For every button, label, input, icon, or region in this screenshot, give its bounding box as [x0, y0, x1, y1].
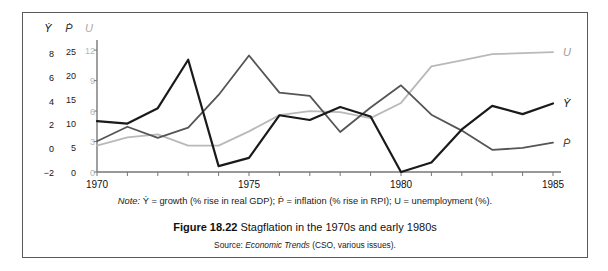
y-tick-label-inflation: 20 [66, 71, 76, 81]
end-label-growth: Ẏ [563, 97, 571, 109]
figure-number: Figure 18.22 [173, 221, 237, 233]
y-tick-label-inflation: 10 [66, 119, 76, 129]
figure-caption-text: Stagflation in the 1970s and early 1980s [240, 221, 436, 233]
y-tick-label-growth: 4 [49, 97, 54, 107]
figure-source: Source: Economic Trends (CSO, various is… [22, 240, 588, 250]
y-tick-label-growth: 0 [49, 144, 54, 154]
series-line-unemployment [97, 52, 553, 145]
y-tick-label-inflation: 0 [71, 168, 76, 178]
figure-note: Note: Ẏ = growth (% rise in real GDP); Ṗ… [22, 196, 588, 206]
end-label-inflation: Ṗ [563, 137, 571, 149]
end-label-unemployment: U [563, 46, 571, 58]
y-tick-label-unemployment: 12 [85, 46, 95, 56]
y-tick-label-inflation: 25 [66, 47, 76, 57]
y-tick-label-growth: −2 [44, 168, 54, 178]
note-prefix: Note: [118, 196, 140, 206]
y-axis-header-inflation: Ṗ [65, 22, 73, 34]
y-tick-label-growth: 6 [49, 73, 54, 83]
source-publication: Economic Trends [245, 240, 310, 250]
figure-caption: Figure 18.22 Stagflation in the 1970s an… [22, 221, 588, 233]
y-axis-header-growth: Ẏ [44, 22, 52, 34]
x-tick-label: 1980 [390, 179, 413, 190]
y-axis-header-unemployment: U [85, 22, 93, 34]
y-tick-label-growth: 8 [49, 49, 54, 59]
series-line-growth [97, 60, 553, 172]
source-prefix: Source: [214, 240, 243, 250]
y-tick-label-inflation: 15 [66, 95, 76, 105]
note-text: Ẏ = growth (% rise in real GDP); Ṗ = inf… [140, 196, 492, 206]
y-tick-label-inflation: 5 [71, 143, 76, 153]
source-rest: (CSO, various issues). [310, 240, 396, 250]
x-tick-label: 1975 [238, 179, 261, 190]
y-tick-label-growth: 2 [49, 120, 54, 130]
x-tick-label: 1985 [542, 179, 565, 190]
series-line-inflation [97, 55, 553, 149]
x-tick-label: 1970 [86, 179, 109, 190]
